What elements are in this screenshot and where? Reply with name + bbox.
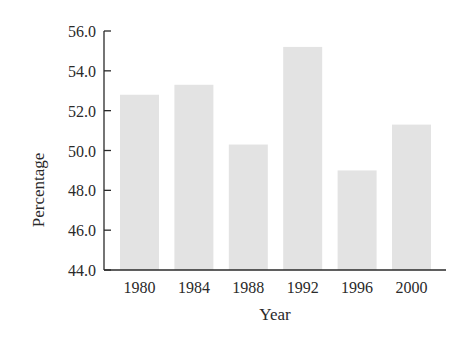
x-tick-label: 1992 — [287, 279, 319, 296]
x-tick-label: 1980 — [124, 279, 156, 296]
x-tick-label: 1988 — [232, 279, 264, 296]
y-tick-label: 56.0 — [68, 23, 96, 40]
bar-2000 — [392, 125, 431, 270]
x-axis-title: Year — [259, 305, 291, 324]
y-tick-label: 50.0 — [68, 143, 96, 160]
y-tick-label: 52.0 — [68, 103, 96, 120]
x-tick-label: 1996 — [341, 279, 373, 296]
bar-1988 — [229, 145, 268, 270]
y-axis: 44.046.048.050.052.054.056.0 — [68, 23, 111, 279]
bar-1992 — [283, 47, 322, 270]
y-tick-label: 48.0 — [68, 182, 96, 199]
x-axis: 198019841988199219962000 — [104, 270, 446, 296]
bar-1980 — [120, 95, 159, 270]
y-tick-label: 46.0 — [68, 222, 96, 239]
y-tick-label: 44.0 — [68, 262, 96, 279]
bar-1984 — [174, 85, 213, 270]
bars-group — [120, 47, 431, 270]
y-tick-label: 54.0 — [68, 63, 96, 80]
y-axis-title: Percentage — [29, 153, 48, 228]
x-tick-label: 1984 — [178, 279, 210, 296]
bar-chart: 44.046.048.050.052.054.056.0 19801984198… — [0, 0, 470, 343]
bar-1996 — [338, 170, 377, 270]
x-tick-label: 2000 — [396, 279, 428, 296]
